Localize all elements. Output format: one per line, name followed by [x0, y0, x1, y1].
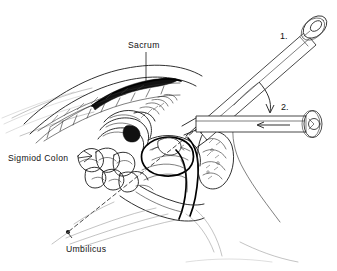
right-body-contour — [186, 128, 298, 262]
label-sacrum: Sacrum — [128, 40, 160, 50]
illustration-canvas: Sacrum Sigmiod Colon Umbilicus 1. 2. — [0, 0, 337, 271]
callout-position-one: 1. — [280, 31, 288, 41]
syringe-2-plunger-head — [302, 111, 322, 138]
leader-lines — [68, 52, 146, 238]
callout-position-two: 2. — [281, 102, 289, 112]
medical-illustration-figure: Sacrum Sigmiod Colon Umbilicus 1. 2. — [0, 0, 337, 271]
body-contour-lines — [2, 88, 94, 136]
abdominal-wall-outline — [24, 65, 202, 143]
needle-trajectory-dashed-line — [52, 128, 198, 244]
label-sigmoid-colon: Sigmiod Colon — [8, 153, 68, 163]
label-umbilicus: Umbilicus — [66, 244, 106, 254]
pubic-bone-structure — [197, 131, 233, 189]
